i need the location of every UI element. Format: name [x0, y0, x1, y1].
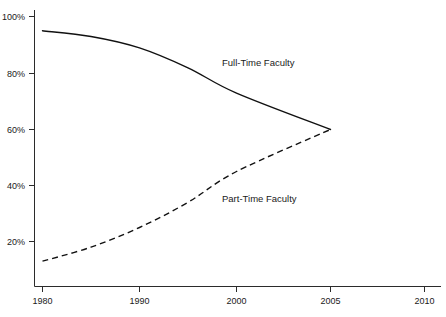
x-tick-label-2005: 2005 — [320, 296, 340, 306]
series-label-full-time-faculty: Full-Time Faculty — [222, 57, 295, 68]
y-tick-label-20: 20% — [7, 237, 25, 247]
series-label-part-time-faculty: Part-Time Faculty — [222, 193, 297, 204]
series-annotations-group: Full-Time Faculty Part-Time Faculty — [222, 57, 297, 204]
y-tick-marks-group — [29, 17, 35, 242]
chart-canvas: 100% 80% 60% 40% 20% 1980 1990 2000 2005… — [0, 0, 446, 317]
x-tick-marks-group — [43, 287, 425, 293]
series-line-full-time-faculty — [43, 31, 331, 130]
y-tick-label-100: 100% — [2, 12, 25, 22]
x-tick-label-2000: 2000 — [226, 296, 246, 306]
x-tick-label-1980: 1980 — [32, 296, 52, 306]
x-tick-label-1990: 1990 — [129, 296, 149, 306]
x-tick-labels-group: 1980 1990 2000 2005 2010 — [32, 296, 434, 306]
y-tick-label-60: 60% — [7, 125, 25, 135]
y-tick-label-40: 40% — [7, 181, 25, 191]
x-tick-label-2010: 2010 — [414, 296, 434, 306]
y-tick-label-80: 80% — [7, 69, 25, 79]
faculty-trend-chart: 100% 80% 60% 40% 20% 1980 1990 2000 2005… — [0, 0, 446, 317]
y-tick-labels-group: 100% 80% 60% 40% 20% — [2, 12, 25, 247]
